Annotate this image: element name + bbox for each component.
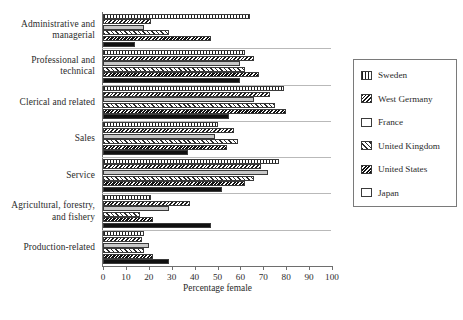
bar bbox=[103, 201, 190, 206]
x-tick bbox=[309, 266, 310, 270]
x-tick bbox=[126, 266, 127, 270]
bar-group bbox=[103, 12, 332, 48]
bar-group bbox=[103, 230, 332, 266]
bar bbox=[103, 217, 153, 222]
bar bbox=[103, 122, 218, 127]
category-label: Service bbox=[0, 170, 95, 182]
bar bbox=[103, 187, 222, 192]
bar bbox=[103, 231, 144, 236]
bar bbox=[103, 212, 140, 217]
bar bbox=[103, 109, 286, 114]
bar bbox=[103, 36, 211, 41]
x-tick bbox=[240, 266, 241, 270]
category-label-line: technical bbox=[0, 66, 95, 78]
legend-item[interactable]: United States bbox=[361, 163, 427, 175]
legend-item[interactable]: United Kingdom bbox=[361, 140, 440, 152]
bar bbox=[103, 248, 144, 253]
bar-group bbox=[103, 48, 332, 84]
category-label-line: Administrative and bbox=[0, 19, 95, 31]
bar bbox=[103, 128, 234, 133]
chart-legend: SwedenWest GermanyFranceUnited KingdomUn… bbox=[353, 59, 457, 207]
x-tick bbox=[149, 266, 150, 270]
category-label-line: Professional and bbox=[0, 55, 95, 67]
x-tick bbox=[218, 266, 219, 270]
legend-swatch-icon bbox=[361, 188, 372, 197]
legend-item[interactable]: Japan bbox=[361, 187, 399, 199]
x-axis-title: Percentage female bbox=[103, 283, 332, 293]
bar bbox=[103, 176, 254, 181]
bar bbox=[103, 195, 151, 200]
bar bbox=[103, 78, 240, 83]
category-label-line: Production-related bbox=[0, 242, 95, 254]
category-label: Sales bbox=[0, 133, 95, 145]
category-label-line: Agricultural, forestry, bbox=[0, 200, 95, 212]
plot-area: 0102030405060708090100 bbox=[103, 12, 332, 266]
legend-swatch-icon bbox=[361, 71, 372, 80]
bar bbox=[103, 30, 169, 35]
legend-label: West Germany bbox=[378, 94, 433, 104]
bar-group bbox=[103, 157, 332, 193]
x-tick bbox=[195, 266, 196, 270]
bar bbox=[103, 97, 254, 102]
bar bbox=[103, 206, 169, 211]
x-tick bbox=[332, 266, 333, 270]
bar bbox=[103, 139, 238, 144]
x-tick-label: 100 bbox=[317, 272, 347, 282]
bar bbox=[103, 42, 135, 47]
bar-group bbox=[103, 121, 332, 157]
legend-swatch-icon bbox=[361, 118, 372, 127]
bar bbox=[103, 67, 245, 72]
legend-label: United States bbox=[378, 164, 427, 174]
bar bbox=[103, 134, 215, 139]
bar bbox=[103, 164, 261, 169]
legend-item[interactable]: France bbox=[361, 116, 403, 128]
category-axis-labels: Administrative andmanagerialProfessional… bbox=[0, 12, 99, 266]
bar-group bbox=[103, 85, 332, 121]
bar bbox=[103, 103, 275, 108]
legend-label: Sweden bbox=[378, 70, 407, 80]
bar bbox=[103, 56, 254, 61]
category-label: Clerical and related bbox=[0, 97, 95, 109]
bar bbox=[103, 150, 188, 155]
legend-item[interactable]: Sweden bbox=[361, 69, 407, 81]
category-label: Production-related bbox=[0, 242, 95, 254]
bar bbox=[103, 72, 259, 77]
bar bbox=[103, 243, 149, 248]
legend-label: United Kingdom bbox=[378, 141, 440, 151]
category-label: Agricultural, forestry,and fishery bbox=[0, 200, 95, 223]
legend-swatch-icon bbox=[361, 141, 372, 150]
bar bbox=[103, 50, 245, 55]
category-label-line: managerial bbox=[0, 30, 95, 42]
bar bbox=[103, 19, 151, 24]
bar bbox=[103, 25, 144, 30]
legend-label: France bbox=[378, 117, 403, 127]
bar bbox=[103, 254, 153, 259]
category-label-line: Sales bbox=[0, 133, 95, 145]
bar bbox=[103, 14, 250, 19]
bar bbox=[103, 61, 240, 66]
bar bbox=[103, 170, 268, 175]
chart-figure: Administrative andmanagerialProfessional… bbox=[0, 0, 463, 320]
bar bbox=[103, 114, 229, 119]
bar bbox=[103, 86, 284, 91]
x-tick bbox=[286, 266, 287, 270]
legend-swatch-icon bbox=[361, 165, 372, 174]
category-label-line: Clerical and related bbox=[0, 97, 95, 109]
bar bbox=[103, 92, 270, 97]
category-label-line: Service bbox=[0, 170, 95, 182]
bar bbox=[103, 223, 211, 228]
bar bbox=[103, 237, 142, 242]
bar bbox=[103, 259, 169, 264]
x-tick bbox=[103, 266, 104, 270]
legend-label: Japan bbox=[378, 188, 399, 198]
bar bbox=[103, 145, 227, 150]
bar-group bbox=[103, 193, 332, 229]
x-tick bbox=[172, 266, 173, 270]
category-label: Administrative andmanagerial bbox=[0, 19, 95, 42]
category-label-line: and fishery bbox=[0, 212, 95, 224]
category-label: Professional andtechnical bbox=[0, 55, 95, 78]
legend-item[interactable]: West Germany bbox=[361, 93, 433, 105]
bar bbox=[103, 181, 245, 186]
x-tick bbox=[263, 266, 264, 270]
bar bbox=[103, 159, 279, 164]
